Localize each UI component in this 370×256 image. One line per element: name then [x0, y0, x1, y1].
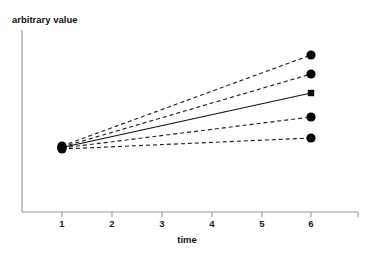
chart-container: arbitrary value 123456 time: [0, 0, 370, 256]
x-axis-title: time: [177, 234, 197, 245]
x-tick-label-1: 1: [59, 218, 65, 229]
y-axis-title: arbitrary value: [12, 14, 77, 25]
x-tick-label-3: 3: [159, 218, 164, 229]
data-point-markers: [57, 50, 315, 153]
series-lines: [62, 55, 311, 149]
series-line-trajectory-1: [62, 55, 311, 146]
x-tick-label-6: 6: [308, 218, 313, 229]
x-tick-label-2: 2: [109, 218, 114, 229]
marker-circle-trajectory-2-end: [306, 69, 315, 78]
series-line-trajectory-2: [62, 74, 311, 147]
marker-circle-trajectory-1-end: [306, 50, 315, 59]
series-line-trajectory-4: [62, 117, 311, 148]
marker-circle-trajectory-5-start: [57, 144, 66, 153]
marker-square-trajectory-3-end: [308, 90, 314, 96]
line-chart: arbitrary value 123456 time: [0, 0, 370, 256]
x-tick-label-4: 4: [209, 218, 215, 229]
marker-circle-trajectory-5-end: [306, 133, 315, 142]
x-axis-ticks: 123456: [59, 212, 358, 229]
x-tick-label-5: 5: [259, 218, 265, 229]
marker-circle-trajectory-4-end: [306, 112, 315, 121]
